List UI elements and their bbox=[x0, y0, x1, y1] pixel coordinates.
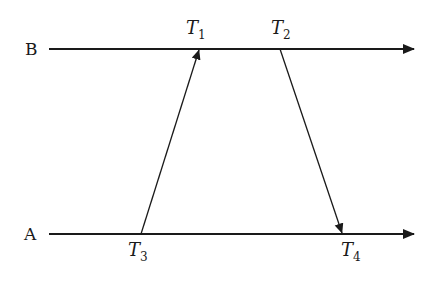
svg-text:2: 2 bbox=[283, 28, 291, 42]
time-label-t4: T 4 bbox=[341, 239, 361, 264]
node-a-label: A bbox=[23, 224, 37, 244]
svg-text:4: 4 bbox=[353, 250, 361, 264]
time-label-t1: T 1 bbox=[186, 17, 206, 42]
node-b-label: B bbox=[25, 39, 38, 59]
message-arrow-a-to-b bbox=[141, 50, 199, 234]
svg-text:3: 3 bbox=[140, 250, 148, 264]
time-label-t2: T 2 bbox=[271, 17, 291, 42]
timing-diagram: B A T 1 T 2 T 3 T 4 bbox=[0, 0, 438, 285]
time-label-t3: T 3 bbox=[128, 239, 148, 264]
svg-text:1: 1 bbox=[198, 28, 206, 42]
message-arrow-b-to-a bbox=[280, 49, 342, 233]
